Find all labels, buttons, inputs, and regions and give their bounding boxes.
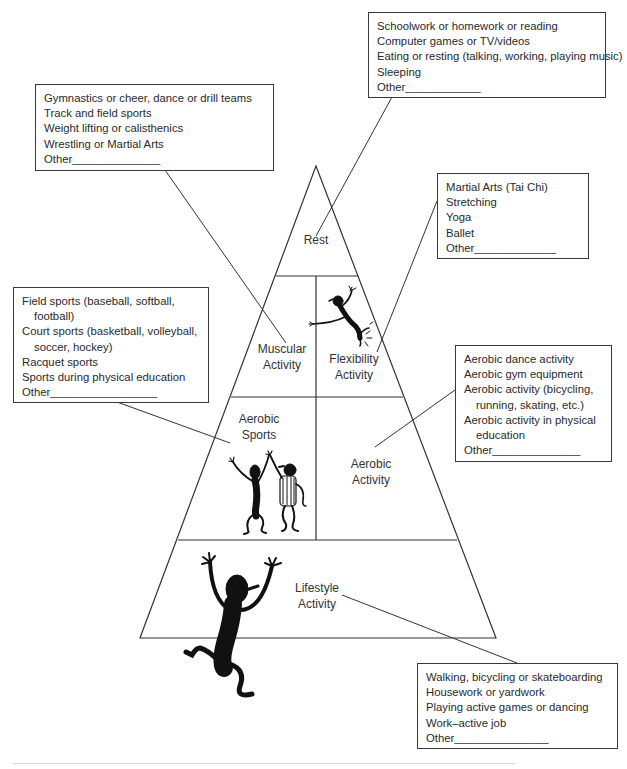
muscular-activities-box: Gymnastics or cheer, dance or drill team…: [35, 84, 274, 171]
connector-aerobic-sports: [117, 402, 230, 443]
list-item: Aerobic activity in physical: [464, 413, 603, 428]
list-item: Stretching: [446, 195, 580, 210]
other-blank[interactable]: Other______________: [464, 443, 603, 458]
level-aerobic-activity-label: Aerobic Activity: [336, 456, 406, 488]
list-item: Computer games or TV/videos: [377, 34, 597, 49]
other-blank[interactable]: Other_____________: [446, 241, 580, 256]
list-item: Housework or yardwork: [426, 685, 609, 700]
level-rest-label: Rest: [296, 232, 336, 248]
muscular-label-line1: Muscular: [247, 341, 317, 357]
lifestyle-figure-icon: [186, 553, 281, 695]
rest-label: Rest: [304, 233, 329, 247]
other-blank[interactable]: Other_________________: [22, 385, 200, 400]
flexibility-label-line2: Activity: [319, 367, 389, 383]
list-item: Racquet sports: [22, 355, 200, 370]
connector-lifestyle: [342, 595, 517, 663]
other-blank[interactable]: Other_______________: [426, 731, 609, 746]
lifestyle-label-line2: Activity: [282, 596, 352, 612]
list-item: Sports during physical education: [22, 370, 200, 385]
level-flexibility-label: Flexibility Activity: [319, 351, 389, 383]
aerobic-activity-label-line2: Activity: [336, 472, 406, 488]
list-item: Wrestling or Martial Arts: [44, 137, 265, 152]
connector-rest: [316, 97, 392, 236]
list-item: Court sports (basketball, volleyball,: [22, 324, 200, 339]
list-item: Aerobic dance activity: [464, 352, 603, 367]
list-item: Aerobic gym equipment: [464, 367, 603, 382]
aerobic-activity-box: Aerobic dance activity Aerobic gym equip…: [455, 345, 612, 462]
list-item: education: [464, 428, 603, 443]
list-item: Playing active games or dancing: [426, 700, 609, 715]
level-muscular-label: Muscular Activity: [247, 341, 317, 373]
list-item: running, skating, etc.): [464, 398, 603, 413]
list-item: Eating or resting (talking, working, pla…: [377, 49, 597, 64]
level-aerobic-sports-label: Aerobic Sports: [224, 411, 294, 443]
other-blank[interactable]: Other____________: [377, 80, 597, 95]
bottom-divider: [13, 763, 515, 764]
list-item: football): [22, 309, 200, 324]
aerobic-activity-label-line1: Aerobic: [336, 456, 406, 472]
flexibility-activities-box: Martial Arts (Tai Chi) Stretching Yoga B…: [437, 173, 589, 259]
aerobic-sports-figures-icon: [229, 451, 306, 534]
list-item: Schoolwork or homework or reading: [377, 19, 597, 34]
list-item: Gymnastics or cheer, dance or drill team…: [44, 91, 265, 106]
list-item: Sleeping: [377, 65, 597, 80]
list-item: Work–active job: [426, 716, 609, 731]
connector-aerobic-activity: [375, 390, 455, 447]
list-item: Field sports (baseball, softball,: [22, 294, 200, 309]
list-item: Weight lifting or calisthenics: [44, 121, 265, 136]
list-item: Ballet: [446, 226, 580, 241]
aerobic-sports-box: Field sports (baseball, softball, footba…: [13, 287, 209, 403]
lifestyle-label-line1: Lifestyle: [282, 580, 352, 596]
connector-flexibility: [377, 201, 437, 352]
rest-activities-box: Schoolwork or homework or reading Comput…: [368, 12, 606, 98]
list-item: Martial Arts (Tai Chi): [446, 180, 580, 195]
list-item: Yoga: [446, 210, 580, 225]
muscular-label-line2: Activity: [247, 357, 317, 373]
flexibility-label-line1: Flexibility: [319, 351, 389, 367]
aerobic-sports-label-line1: Aerobic: [224, 411, 294, 427]
list-item: Walking, bicycling or skateboarding: [426, 670, 609, 685]
list-item: Aerobic activity (bicycling,: [464, 382, 603, 397]
list-item: soccer, hockey): [22, 340, 200, 355]
flexibility-figure-icon: [309, 286, 373, 346]
aerobic-sports-label-line2: Sports: [224, 427, 294, 443]
level-lifestyle-label: Lifestyle Activity: [282, 580, 352, 612]
lifestyle-activities-box: Walking, bicycling or skateboarding Hous…: [417, 663, 618, 749]
other-blank[interactable]: Other______________: [44, 152, 265, 167]
list-item: Track and field sports: [44, 106, 265, 121]
